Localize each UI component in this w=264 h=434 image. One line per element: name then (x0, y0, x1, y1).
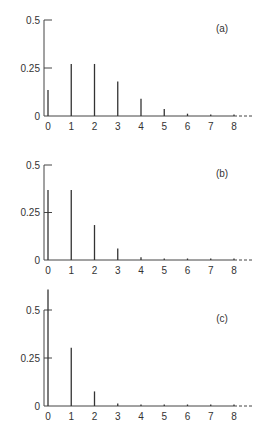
chart-panel-c: 00.250.5012345678(c) (21, 289, 252, 422)
y-tick-label: 0 (34, 255, 40, 266)
x-tick-label: 0 (45, 411, 51, 422)
y-tick-label: 0.25 (21, 207, 41, 218)
x-tick-label: 0 (45, 265, 51, 276)
x-tick-label: 5 (161, 411, 167, 422)
x-tick-label: 7 (208, 411, 214, 422)
x-tick-label: 1 (68, 265, 74, 276)
x-tick-label: 0 (45, 121, 51, 132)
x-tick-label: 4 (138, 265, 144, 276)
x-tick-label: 8 (231, 411, 237, 422)
poisson-distribution-figure: 00.250.5012345678(a)00.250.5012345678(b)… (0, 0, 264, 434)
x-tick-label: 8 (231, 265, 237, 276)
x-tick-label: 6 (185, 411, 191, 422)
x-tick-label: 5 (161, 121, 167, 132)
y-tick-label: 0.5 (26, 160, 40, 171)
x-tick-label: 1 (68, 411, 74, 422)
x-tick-label: 3 (115, 265, 121, 276)
x-tick-label: 2 (92, 411, 98, 422)
y-tick-label: 0.5 (26, 305, 40, 316)
x-tick-label: 4 (138, 121, 144, 132)
x-tick-label: 7 (208, 121, 214, 132)
panel-label: (a) (216, 23, 228, 34)
x-tick-label: 6 (185, 265, 191, 276)
x-tick-label: 1 (68, 121, 74, 132)
x-tick-label: 7 (208, 265, 214, 276)
x-tick-label: 2 (92, 265, 98, 276)
x-tick-label: 3 (115, 411, 121, 422)
panel-label: (b) (216, 168, 228, 179)
x-tick-label: 6 (185, 121, 191, 132)
panel-label: (c) (216, 313, 228, 324)
x-tick-label: 4 (138, 411, 144, 422)
y-tick-label: 0 (34, 401, 40, 412)
y-tick-label: 0.5 (26, 15, 40, 26)
chart-panel-a: 00.250.5012345678(a) (21, 15, 252, 133)
x-tick-label: 8 (231, 121, 237, 132)
y-tick-label: 0 (34, 111, 40, 122)
x-tick-label: 2 (92, 121, 98, 132)
chart-panel-b: 00.250.5012345678(b) (21, 160, 252, 277)
y-tick-label: 0.25 (21, 63, 41, 74)
x-tick-label: 5 (161, 265, 167, 276)
x-tick-label: 3 (115, 121, 121, 132)
y-tick-label: 0.25 (21, 353, 41, 364)
